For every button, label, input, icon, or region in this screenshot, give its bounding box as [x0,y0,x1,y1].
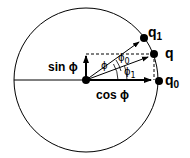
label-phi0: ϕ0 [118,53,130,63]
label-cos-phi: cos ϕ [96,89,129,101]
label-phi1: ϕ1 [124,67,136,77]
diagram-canvas [0,0,190,158]
vector-q [86,57,148,80]
label-q0-base: q [165,72,174,88]
phasor-diagram: sin ϕ cos ϕ ϕ ϕ0 ϕ1 q1 q q0 [0,0,190,158]
label-q1: q1 [148,25,162,39]
label-phi0-sub: 0 [125,57,130,66]
point-q1 [140,34,148,42]
label-phi1-base: ϕ [124,66,131,77]
label-phi0-base: ϕ [118,52,125,63]
label-q0-sub: 0 [174,79,180,90]
label-phi1-sub: 1 [131,71,136,80]
angle-arc-phi [114,64,119,80]
label-q: q [165,46,174,60]
center-point [82,76,90,84]
label-q0: q0 [165,73,179,87]
point-q [150,50,158,58]
label-q1-sub: 1 [157,31,163,42]
point-q0 [155,77,163,85]
label-q1-base: q [148,24,157,40]
label-phi: ϕ [101,61,108,71]
label-sin-phi: sin ϕ [48,61,78,73]
